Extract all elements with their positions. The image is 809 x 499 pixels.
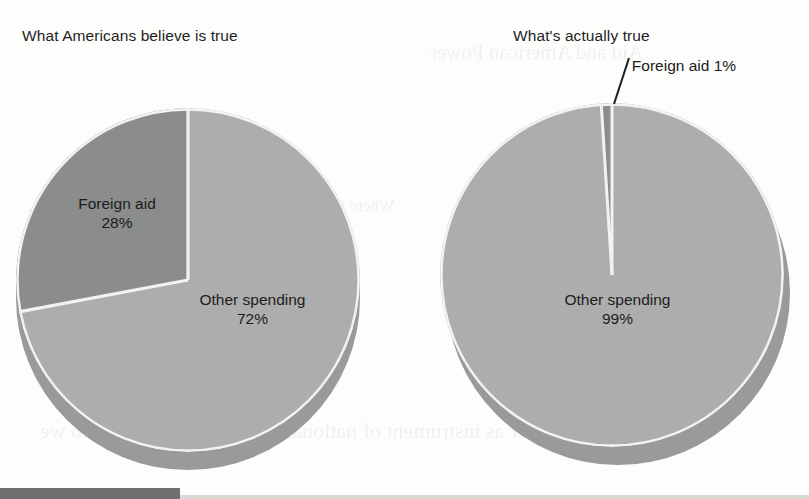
pie-face-believed [16,108,360,452]
slice-label-other-spending-believed-name: Other spending [200,291,306,308]
slice-label-other-spending-believed: Other spending 72% [160,290,345,328]
chart-panel-actual: What's actually true Foreign aid 1% [405,0,809,499]
pie-face-actual [440,103,784,447]
slice-label-other-spending-actual: Other spending 99% [525,290,710,328]
slice-label-other-spending-actual-percent: 99% [525,309,710,328]
callout-label-foreign-aid-actual: Foreign aid 1% [608,56,760,76]
slice-label-other-spending-actual-name: Other spending [565,291,671,308]
chart-title-believed: What Americans believe is true [22,27,238,45]
slice-label-foreign-aid-believed: Foreign aid 28% [42,194,192,232]
chart-title-actual: What's actually true [513,27,650,45]
slice-label-other-spending-believed-percent: 72% [160,309,345,328]
callout-label-foreign-aid-actual-percent: 1% [714,57,736,74]
pie-chart-actual [440,103,784,447]
figure-two-pie-charts: What Americans believe is true Foreign a… [0,0,809,499]
slice-label-foreign-aid-believed-percent: 28% [42,213,192,232]
chart-panel-believed: What Americans believe is true Foreign a… [0,0,405,499]
pie-chart-believed [16,108,360,452]
page-binding-strip [0,488,180,499]
slice-label-foreign-aid-believed-name: Foreign aid [78,195,156,212]
callout-label-foreign-aid-actual-name: Foreign aid [632,57,710,74]
